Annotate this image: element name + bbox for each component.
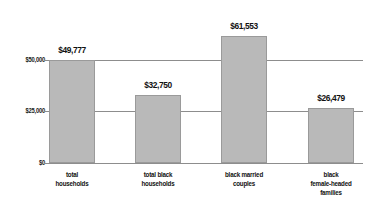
category-line: households <box>41 179 102 188</box>
ytick-label-50000: $50,000 <box>6 56 45 63</box>
category-line: female-headed <box>300 179 361 188</box>
value-label-total-black-households: $32,750 <box>129 80 187 90</box>
category-label-total-black-households: total black households <box>127 170 188 188</box>
bar-total-households <box>49 60 95 163</box>
category-label-black-married-couples: black married couples <box>213 170 274 188</box>
category-line: black <box>300 170 361 179</box>
category-line: families <box>300 188 361 197</box>
category-line: black married <box>213 170 274 179</box>
bar-total-black-households <box>135 95 181 163</box>
value-label-black-female-headed-families: $26,479 <box>302 93 360 103</box>
ytick-label-25000: $25,000 <box>6 107 45 114</box>
category-label-total-households: total households <box>41 170 102 188</box>
axis-baseline-0 <box>49 163 363 164</box>
ytick-mark-0 <box>44 163 49 164</box>
bar-chart: $50,000 $25,000 $0 $49,777 $32,750 $61,5… <box>0 0 369 217</box>
value-label-black-married-couples: $61,553 <box>215 21 273 31</box>
category-line: couples <box>213 179 274 188</box>
bar-black-female-headed-families <box>308 108 354 163</box>
category-line: total black <box>127 170 188 179</box>
category-label-black-female-headed-families: black female-headed families <box>300 170 361 198</box>
value-label-total-households: $49,777 <box>43 45 101 55</box>
gridline-50000 <box>49 60 363 61</box>
category-line: total <box>41 170 102 179</box>
bar-black-married-couples <box>221 36 267 163</box>
category-line: households <box>127 179 188 188</box>
ytick-label-0: $0 <box>6 159 45 166</box>
